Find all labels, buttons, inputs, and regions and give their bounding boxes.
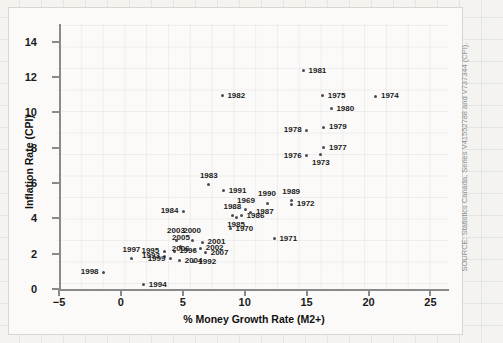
data-point — [163, 250, 166, 253]
x-axis-line — [59, 289, 449, 291]
x-axis-title: % Money Growth Rate (M2+) — [59, 313, 449, 325]
x-tick-mark — [306, 289, 308, 296]
y-tick-mark — [52, 147, 60, 149]
data-point-label: 1982 — [227, 92, 245, 100]
y-tick-label: 0 — [15, 283, 37, 295]
data-point — [231, 214, 234, 217]
data-point — [235, 216, 238, 219]
data-point — [273, 237, 276, 240]
data-point — [222, 189, 225, 192]
y-tick-mark — [52, 217, 60, 219]
data-point — [221, 94, 224, 97]
data-point-label: 1984 — [161, 207, 179, 215]
y-tick-mark — [52, 111, 60, 113]
data-point-label: 1971 — [279, 235, 297, 243]
data-point — [330, 107, 333, 110]
x-tick-label: 20 — [349, 296, 389, 308]
y-axis-line — [59, 24, 61, 290]
x-tick-label: 25 — [410, 296, 450, 308]
data-point-label: 1997 — [123, 246, 141, 254]
x-tick-mark — [368, 289, 370, 296]
data-point — [321, 94, 324, 97]
data-point — [229, 227, 232, 230]
data-point-label: 1989 — [282, 188, 300, 196]
data-point — [204, 251, 207, 254]
data-point-label: 1990 — [258, 190, 276, 198]
x-tick-mark — [244, 289, 246, 296]
y-tick-label: 14 — [15, 36, 37, 48]
x-tick-mark — [58, 289, 60, 296]
data-point — [240, 214, 243, 217]
scatter-plot-area: 02468101214 −50510152025 199819941997200… — [9, 8, 464, 336]
data-point-label: 1978 — [284, 126, 302, 134]
source-attribution: SOURCE: Statistics Canada, Series V41552… — [460, 42, 469, 272]
data-point-label: 1981 — [309, 67, 327, 75]
x-tick-mark — [182, 289, 184, 296]
data-point-label: 1980 — [336, 105, 354, 113]
data-point-label: 1970 — [235, 225, 253, 233]
data-point-label: 2000 — [183, 227, 201, 235]
x-tick-label: 10 — [225, 296, 265, 308]
data-point-label: 1998 — [81, 268, 99, 276]
data-point-label: 1994 — [149, 281, 167, 289]
data-point-label: 2006 — [172, 245, 190, 253]
data-point-label: 2007 — [211, 249, 229, 257]
x-tick-mark — [429, 289, 431, 296]
data-point-label: 1979 — [329, 123, 347, 131]
x-tick-label: 5 — [163, 296, 203, 308]
data-point — [266, 202, 269, 205]
data-point-label: 1976 — [284, 152, 302, 160]
data-point-label: 1972 — [297, 200, 315, 208]
data-point — [302, 69, 305, 72]
data-point-label: 1973 — [312, 159, 330, 167]
data-point-label: 1977 — [329, 144, 347, 152]
data-point-label: 1992 — [198, 258, 216, 266]
x-tick-label: 15 — [287, 296, 327, 308]
data-point — [142, 283, 145, 286]
data-point — [130, 257, 133, 260]
data-point-label: 1974 — [381, 92, 399, 100]
data-point — [182, 210, 185, 213]
data-point — [178, 259, 181, 262]
y-tick-mark — [52, 182, 60, 184]
data-point — [290, 203, 293, 206]
data-point-label: 1969 — [237, 197, 255, 205]
data-point — [319, 153, 322, 156]
data-point — [169, 257, 172, 260]
data-point — [191, 239, 194, 242]
data-point-label: 1991 — [229, 187, 247, 195]
chart-figure: 02468101214 −50510152025 199819941997200… — [8, 7, 463, 335]
data-point — [322, 146, 325, 149]
data-point — [199, 247, 202, 250]
data-point — [322, 126, 325, 129]
data-point — [305, 129, 308, 132]
data-point-label: 1975 — [328, 92, 346, 100]
x-tick-label: −5 — [39, 296, 79, 308]
data-point — [374, 95, 377, 98]
data-point — [201, 241, 204, 244]
y-axis-title: Inflation Rate (CPI) — [23, 62, 35, 262]
data-point — [193, 248, 196, 251]
data-point-label: 1987 — [256, 208, 274, 216]
data-point — [102, 271, 105, 274]
x-tick-label: 0 — [101, 296, 141, 308]
data-point-label: 1983 — [200, 172, 218, 180]
y-tick-mark — [52, 253, 60, 255]
y-tick-mark — [52, 76, 60, 78]
x-tick-mark — [120, 289, 122, 296]
data-point — [305, 154, 308, 157]
data-point — [192, 260, 195, 263]
data-point — [290, 199, 293, 202]
data-point-label: 1999 — [148, 255, 166, 263]
data-point — [207, 183, 210, 186]
y-tick-mark — [52, 41, 60, 43]
